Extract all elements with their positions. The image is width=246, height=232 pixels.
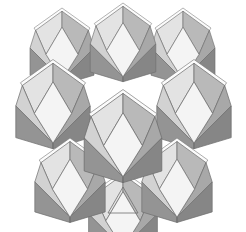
rhombic-dodecahedra-packing	[0, 0, 246, 232]
cells-layer	[16, 3, 231, 232]
figure-root: Rhombic dodecahedra space-filling packin…	[0, 0, 246, 232]
